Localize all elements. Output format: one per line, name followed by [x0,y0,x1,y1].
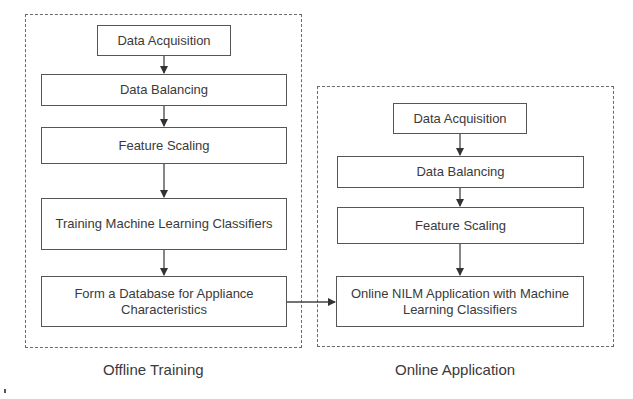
flow-arrows [0,0,633,399]
stray-mark [4,389,6,393]
